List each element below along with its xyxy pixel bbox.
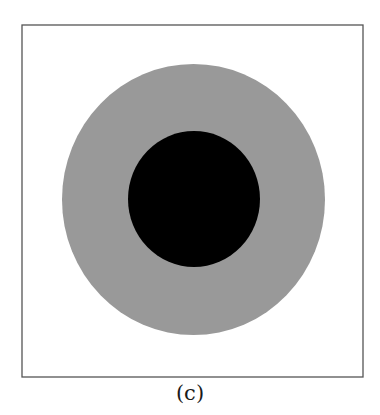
figure-caption: (c) — [0, 380, 380, 406]
inner-black-circle — [128, 131, 260, 267]
figure-canvas — [0, 0, 380, 415]
